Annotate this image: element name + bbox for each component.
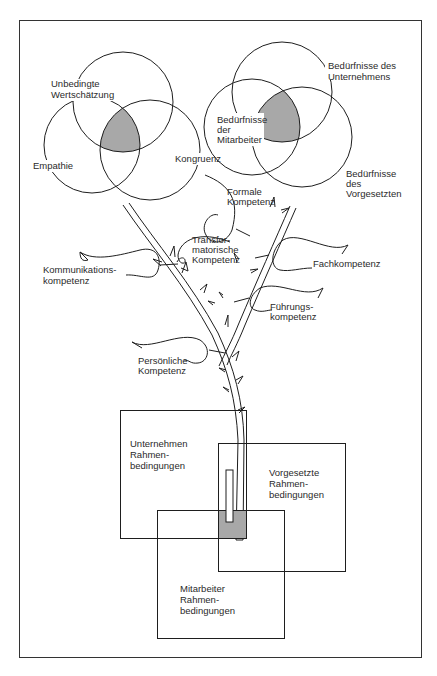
label-kongruenz: Kongruenz bbox=[175, 153, 221, 164]
label-formale-kompetenz: Formale Kompetenz bbox=[227, 186, 275, 207]
competence-leaves: Formale Kompetenz Transfor- matorische K… bbox=[43, 175, 381, 376]
label-empathie: Empathie bbox=[33, 160, 73, 171]
label-vorgesetzte-rahmenbedingungen: Vorgesetzte Rahmen- bedingungen bbox=[269, 467, 324, 500]
label-unternehmen-rahmenbedingungen: Unternehmen Rahmen- bedingungen bbox=[130, 438, 190, 471]
left-venn-diagram: Unbedingte Wertschätzung Empathie Kongru… bbox=[32, 52, 222, 200]
label-transformatorische-kompetenz: Transfor- matorische Kompetenz bbox=[192, 234, 241, 265]
framework-boxes: Unternehmen Rahmen- bedingungen Vorgeset… bbox=[121, 411, 346, 639]
label-fachkompetenz: Fachkompetenz bbox=[313, 258, 381, 269]
competence-plant-diagram: Unbedingte Wertschätzung Empathie Kongru… bbox=[0, 0, 437, 676]
label-kommunikationskompetenz: Kommunikations- kompetenz bbox=[43, 264, 119, 286]
right-venn-diagram: Bedürfnisse des Unternehmens Bedürfnisse… bbox=[204, 42, 410, 201]
right-venn-intersection-shade bbox=[252, 87, 352, 187]
label-persoenliche-kompetenz: Persönliche Kompetenz bbox=[138, 355, 190, 376]
label-beduerfnisse-unternehmens: Bedürfnisse des Unternehmens bbox=[328, 60, 399, 82]
left-venn-intersection-shade bbox=[100, 100, 200, 200]
label-fuehrungskompetenz: Führungs- kompetenz bbox=[270, 301, 317, 322]
label-mitarbeiter-rahmenbedingungen: Mitarbeiter Rahmen- bedingungen bbox=[180, 583, 235, 616]
